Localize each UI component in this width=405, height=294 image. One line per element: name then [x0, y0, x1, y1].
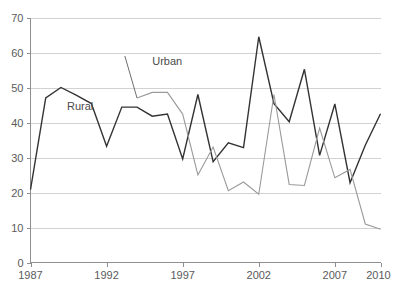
gridlines-group [31, 19, 381, 229]
y-axis-label-20: 20 [11, 187, 23, 199]
y-axis-label-40: 40 [11, 117, 23, 129]
y-axis-tick-labels: 010203040506070 [11, 12, 23, 269]
line-chart: 010203040506070 198719921997200220072010… [0, 0, 405, 294]
series-line-rural [31, 37, 381, 190]
y-axis-label-0: 0 [17, 257, 23, 269]
data-series-group [31, 37, 381, 230]
x-axis-tick-labels: 198719921997200220072010 [18, 269, 390, 281]
axes-group [31, 18, 381, 263]
chart-canvas: 010203040506070 198719921997200220072010… [0, 0, 405, 294]
series-annotations-group: RuralUrban [67, 55, 182, 113]
tick-marks-group [27, 19, 382, 267]
leader-line-urban [125, 56, 137, 98]
series-line-urban [137, 92, 380, 229]
x-axis-label-2010: 2010 [366, 269, 390, 281]
y-axis-label-30: 30 [11, 152, 23, 164]
y-axis-label-10: 10 [11, 222, 23, 234]
x-axis-label-2007: 2007 [323, 269, 347, 281]
x-axis-label-2002: 2002 [247, 269, 271, 281]
x-axis-label-1997: 1997 [170, 269, 194, 281]
y-axis-label-60: 60 [11, 47, 23, 59]
y-axis-label-70: 70 [11, 12, 23, 24]
y-axis-label-50: 50 [11, 82, 23, 94]
x-axis-label-1992: 1992 [94, 269, 118, 281]
series-label-urban: Urban [152, 55, 182, 67]
series-label-rural: Rural [67, 100, 93, 112]
x-axis-label-1987: 1987 [18, 269, 42, 281]
